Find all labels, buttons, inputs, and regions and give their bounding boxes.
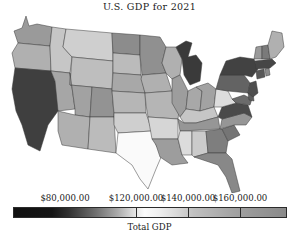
colorbar-tick-3 <box>240 207 241 218</box>
state-maine[interactable] <box>268 31 284 59</box>
colorbar-tick-0 <box>65 207 66 218</box>
page-title: U.S. GDP for 2021 <box>0 1 299 12</box>
state-nebraska[interactable] <box>112 73 145 93</box>
state-alabama[interactable] <box>192 131 208 157</box>
colorbar-tick-label-3: $160,000.00 <box>213 193 268 203</box>
state-north-dakota[interactable] <box>112 33 140 55</box>
state-vermont[interactable] <box>254 46 262 59</box>
state-arkansas[interactable] <box>148 117 178 139</box>
state-florida[interactable] <box>194 153 240 193</box>
colorbar-tick-label-2: $140,000.00 <box>161 193 216 203</box>
colorbar-caption: Total GDP <box>0 222 299 236</box>
state-new-york[interactable] <box>220 57 258 77</box>
state-indiana[interactable] <box>186 87 202 111</box>
state-arizona[interactable] <box>58 111 90 149</box>
colorbar-tick-label-0: $80,000.00 <box>40 193 89 203</box>
state-south-dakota[interactable] <box>113 53 141 75</box>
state-oregon[interactable] <box>12 43 51 71</box>
state-new-mexico[interactable] <box>88 117 116 153</box>
state-wyoming[interactable] <box>70 57 113 89</box>
state-minnesota[interactable] <box>140 35 166 75</box>
colorbar[interactable] <box>13 207 287 218</box>
choropleth-map-axes <box>0 13 299 193</box>
colorbar-tick-2 <box>188 207 189 218</box>
state-shapes <box>12 16 284 193</box>
colorbar-tick-label-1: $120,000.00 <box>109 193 164 203</box>
state-colorado[interactable] <box>90 87 114 117</box>
us-states-map <box>0 13 299 193</box>
state-oklahoma[interactable] <box>114 113 152 133</box>
state-connecticut[interactable] <box>256 69 265 79</box>
colorbar-tick-1 <box>136 207 137 218</box>
colorbar-gradient <box>13 207 287 218</box>
figure-canvas: U.S. GDP for 2021 <box>0 0 299 236</box>
state-massachusetts[interactable] <box>255 59 276 69</box>
state-rhode-island[interactable] <box>265 68 270 76</box>
state-kansas[interactable] <box>112 91 146 113</box>
state-iowa[interactable] <box>141 73 172 93</box>
state-washington[interactable] <box>14 16 52 46</box>
state-california[interactable] <box>12 68 62 151</box>
